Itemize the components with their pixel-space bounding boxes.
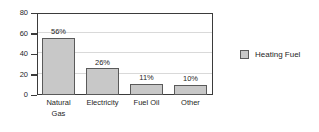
y-tick-label: 0 bbox=[24, 90, 28, 100]
bar-value-label: 26% bbox=[78, 58, 127, 67]
bar-group-fuel-oil: 11% bbox=[130, 13, 163, 95]
bar-value-label: 56% bbox=[34, 27, 83, 36]
bar-electricity[interactable] bbox=[86, 68, 119, 95]
y-tick-label: 20 bbox=[20, 70, 28, 80]
bar-chart: 80 60 40 20 0 56% 26% bbox=[0, 0, 319, 132]
x-axis-label-line: Gas bbox=[32, 108, 85, 119]
y-tick-label: 40 bbox=[20, 49, 28, 59]
bar-fuel-oil[interactable] bbox=[130, 84, 163, 95]
bar-value-label: 10% bbox=[166, 74, 215, 83]
bars-layer: 56% 26% 11% 10% bbox=[37, 13, 213, 95]
bar-natural-gas[interactable] bbox=[42, 38, 75, 95]
y-tick-label: 60 bbox=[20, 29, 28, 39]
legend-label: Heating Fuel bbox=[255, 50, 300, 59]
legend-swatch-icon bbox=[240, 50, 249, 59]
y-axis-tick: 80 bbox=[0, 8, 37, 18]
y-axis-tick: 20 bbox=[0, 70, 37, 80]
x-axis-labels: Natural Gas Electricity Fuel Oil Other bbox=[37, 97, 213, 131]
bar-group-electricity: 26% bbox=[86, 13, 119, 95]
y-axis-tick: 60 bbox=[0, 29, 37, 39]
bar-other[interactable] bbox=[174, 85, 207, 95]
chart-legend: Heating Fuel bbox=[240, 50, 300, 59]
x-axis-label-other: Other bbox=[164, 97, 217, 108]
bar-value-label: 11% bbox=[122, 73, 171, 82]
bar-group-natural-gas: 56% bbox=[42, 13, 75, 95]
bar-group-other: 10% bbox=[174, 13, 207, 95]
y-tick-label: 80 bbox=[20, 8, 28, 18]
y-axis-tick: 40 bbox=[0, 49, 37, 59]
x-axis-label-line: Other bbox=[164, 97, 217, 108]
